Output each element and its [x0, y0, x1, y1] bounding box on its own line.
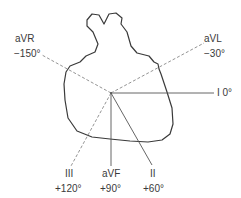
- label-III-angle: +120°: [55, 183, 82, 195]
- label-III-name: III: [65, 168, 73, 180]
- label-aVR-name: aVR: [15, 33, 34, 45]
- label-II-angle: +60°: [143, 183, 164, 195]
- center-point: [110, 92, 112, 94]
- label-I: I 0°: [217, 87, 232, 99]
- heart-outline: [64, 13, 173, 142]
- label-aVR-angle: −150°: [14, 48, 41, 60]
- lead-aVL-axis: [111, 43, 204, 93]
- lead-aVR-axis: [42, 55, 111, 93]
- lead-II-axis: [111, 93, 152, 165]
- label-aVL-name: aVL: [204, 33, 222, 45]
- label-II-name: II: [150, 168, 156, 180]
- label-aVF-angle: +90°: [100, 183, 121, 195]
- lead-III-axis: [71, 93, 111, 166]
- hexaxial-diagram: [0, 0, 241, 198]
- label-aVL-angle: −30°: [204, 48, 225, 60]
- label-aVF-name: aVF: [102, 168, 120, 180]
